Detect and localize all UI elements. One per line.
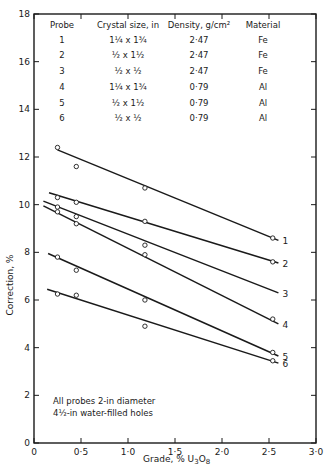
x-tick-label: 1·0: [121, 447, 136, 457]
table-header-probe: Probe: [50, 20, 74, 30]
data-point: [143, 253, 147, 257]
x-tick-label: 2·0: [215, 447, 230, 457]
x-tick-label: 3·0: [309, 447, 324, 457]
table-header-density: Density, g/cm²: [168, 20, 230, 30]
table-row: 6½ x ½0·79Al: [59, 113, 267, 123]
x-tick-label: 0: [31, 447, 37, 457]
data-point: [74, 200, 78, 204]
cell-density: 2·47: [190, 35, 209, 45]
y-tick-label: 6: [24, 295, 30, 305]
data-point: [143, 324, 147, 328]
fit-line-probe-2: [49, 193, 278, 263]
cell-density: 0·79: [190, 82, 209, 92]
fit-line-probe-5: [48, 254, 278, 356]
series-markers: [55, 145, 275, 363]
y-tick-label: 2: [24, 390, 30, 400]
cell-material: Al: [259, 82, 267, 92]
cell-crystal-size: ½ x ½: [115, 66, 142, 76]
cell-density: 0·79: [190, 98, 209, 108]
cell-material: Al: [259, 98, 267, 108]
data-point: [74, 268, 78, 272]
series-label-6: 6: [282, 359, 288, 369]
cell-material: Fe: [258, 66, 268, 76]
series-label-1: 1: [282, 236, 288, 246]
probe-table: Probe Crystal size, in Density, g/cm² Ma…: [50, 20, 280, 123]
y-tick-label: 8: [24, 247, 30, 257]
data-point: [271, 350, 275, 354]
cell-probe: 1: [59, 35, 64, 45]
data-point: [55, 255, 59, 259]
x-axis: 00·51·01·52·02·53·0: [31, 14, 323, 457]
data-point: [271, 359, 275, 363]
table-row: 3½ x ½2·47Fe: [59, 66, 268, 76]
y-tick-label: 10: [19, 200, 31, 210]
cell-probe: 6: [59, 113, 64, 123]
data-point: [55, 210, 59, 214]
cell-probe: 4: [59, 82, 64, 92]
data-point: [74, 293, 78, 297]
y-tick-label: 18: [19, 9, 31, 19]
plot-border: [34, 14, 316, 443]
cell-crystal-size: ½ x 1½: [112, 98, 144, 108]
svg-text:Grade, % U3O8: Grade, % U3O8: [143, 454, 210, 466]
series-label-3: 3: [282, 289, 288, 299]
table-row: 41¼ x 1¾0·79Al: [59, 82, 267, 92]
table-row: 2½ x 1½2·47Fe: [59, 50, 268, 60]
cell-material: Fe: [258, 35, 268, 45]
cell-crystal-size: 1¼ x 1¾: [109, 82, 147, 92]
y-axis-title: Correction, %: [5, 254, 15, 315]
cell-material: Al: [259, 113, 267, 123]
chart-note: All probes 2-in diameter 4½-in water-fil…: [53, 396, 156, 418]
cell-probe: 3: [59, 66, 64, 76]
cell-density: 0·79: [190, 113, 209, 123]
cell-probe: 5: [59, 98, 64, 108]
data-point: [271, 317, 275, 321]
table-row: 11¼ x 1¾2·47Fe: [59, 35, 268, 45]
data-point: [55, 195, 59, 199]
fit-line-probe-1: [58, 150, 279, 241]
x-tick-label: 2·5: [262, 447, 276, 457]
y-tick-label: 12: [19, 152, 30, 162]
y-tick-label: 0: [24, 438, 30, 448]
table-header-crystal-size: Crystal size, in: [97, 20, 159, 30]
data-point: [55, 292, 59, 296]
note-line-1: All probes 2-in diameter: [53, 396, 156, 406]
x-axis-title: Grade, % U3O8: [143, 454, 210, 466]
fit-line-probe-6: [47, 289, 278, 363]
cell-probe: 2: [59, 50, 64, 60]
y-tick-label: 16: [19, 57, 31, 67]
data-point: [74, 164, 78, 168]
data-point: [55, 145, 59, 149]
x-tick-label: 0·5: [74, 447, 88, 457]
data-point: [143, 186, 147, 190]
cell-crystal-size: ½ x 1½: [112, 50, 144, 60]
series-labels: 123456: [282, 236, 288, 369]
data-point: [143, 219, 147, 223]
data-point: [143, 243, 147, 247]
cell-material: Fe: [258, 50, 268, 60]
cell-density: 2·47: [190, 50, 209, 60]
cell-density: 2·47: [190, 66, 209, 76]
note-line-2: 4½-in water-filled holes: [53, 408, 153, 418]
data-point: [271, 236, 275, 240]
cell-crystal-size: 1¼ x 1¾: [109, 35, 147, 45]
table-header-material: Material: [246, 20, 281, 30]
chart: 024681012141618 00·51·01·52·02·53·0 1234…: [0, 0, 331, 476]
y-tick-label: 14: [19, 104, 31, 114]
cell-crystal-size: ½ x ½: [115, 113, 142, 123]
series-label-2: 2: [282, 259, 288, 269]
y-tick-label: 4: [24, 343, 30, 353]
data-point: [55, 205, 59, 209]
data-point: [74, 222, 78, 226]
data-point: [74, 214, 78, 218]
table-row: 5½ x 1½0·79Al: [59, 98, 267, 108]
fit-line-probe-3: [43, 201, 278, 293]
data-point: [143, 298, 147, 302]
plot-frame: [34, 14, 316, 443]
series-label-4: 4: [282, 320, 288, 330]
data-point: [271, 260, 275, 264]
series-lines: [43, 150, 278, 363]
